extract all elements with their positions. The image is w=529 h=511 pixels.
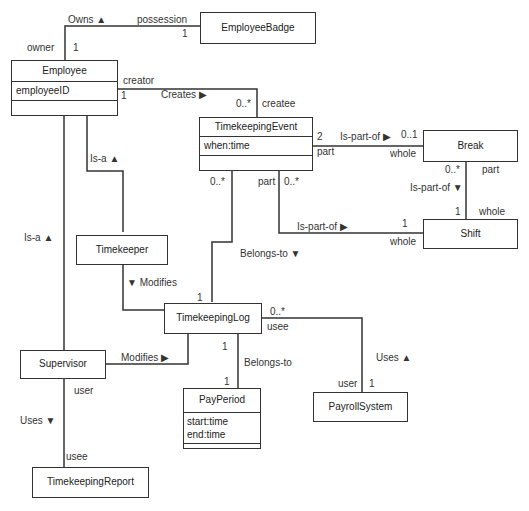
class-name: EmployeeBadge bbox=[201, 13, 315, 42]
label-owns: Owns ▲ bbox=[68, 14, 106, 25]
label-break-shift-assoc: Is-part-of ▼ bbox=[410, 182, 463, 193]
class-timekeeper: Timekeeper bbox=[76, 235, 168, 265]
label-creates: Creates ▶ bbox=[161, 89, 207, 100]
class-timekeeping-report: TimekeepingReport bbox=[32, 467, 149, 498]
label-owns-mult-badge: 1 bbox=[182, 28, 188, 39]
label-supervisor-modifies: Modifies ▶ bbox=[121, 352, 169, 363]
label-isa-supervisor: Is-a ▲ bbox=[24, 232, 53, 243]
label-log-period-mult-period: 1 bbox=[224, 376, 230, 387]
class-attributes: when:time bbox=[200, 136, 312, 155]
label-report-usee: usee bbox=[66, 451, 88, 462]
label-createe: createe bbox=[262, 98, 295, 109]
label-event-shift-part: part bbox=[258, 176, 275, 187]
class-timekeeping-event: TimekeepingEvent when:time bbox=[199, 117, 313, 171]
label-owner: owner bbox=[27, 42, 54, 53]
class-employee: Employee employeeID bbox=[11, 60, 118, 116]
class-name: Employee bbox=[12, 61, 117, 81]
label-creates-mult-event: 0..* bbox=[236, 98, 251, 109]
attribute: end:time bbox=[187, 428, 257, 441]
label-supervisor-user: user bbox=[74, 385, 93, 396]
class-supervisor: Supervisor bbox=[20, 350, 106, 379]
class-name: TimekeepingReport bbox=[33, 468, 148, 496]
label-break-shift-whole: whole bbox=[479, 206, 505, 217]
label-break-shift-part: part bbox=[482, 164, 499, 175]
label-belongs-to-event-log: Belongs-to ▼ bbox=[240, 248, 300, 259]
label-log-period-mult-log: 1 bbox=[222, 341, 228, 352]
attribute: start:time bbox=[187, 415, 257, 428]
label-event-break-mult-break: 0..1 bbox=[401, 129, 418, 140]
label-break-shift-mult-break: 0..* bbox=[445, 164, 460, 175]
label-event-break-mult-event: 2 bbox=[317, 131, 323, 142]
label-break-shift-mult-shift: 1 bbox=[455, 206, 461, 217]
class-name: Supervisor bbox=[21, 351, 105, 377]
label-event-break-whole: whole bbox=[390, 148, 416, 159]
label-supervisor-uses: Uses ▼ bbox=[20, 415, 55, 426]
label-log-usee: usee bbox=[267, 321, 289, 332]
label-log-payroll-mult: 0..* bbox=[270, 306, 285, 317]
class-shift: Shift bbox=[423, 219, 518, 249]
class-attributes: start:time end:time bbox=[184, 412, 260, 443]
class-employee-badge: EmployeeBadge bbox=[200, 12, 316, 44]
label-payroll-uses: Uses ▲ bbox=[376, 352, 411, 363]
label-creates-mult-employee: 1 bbox=[121, 90, 127, 101]
class-break: Break bbox=[423, 130, 518, 162]
class-operations bbox=[184, 443, 260, 449]
class-operations bbox=[200, 155, 312, 161]
label-timekeeper-modifies: ▼ Modifies bbox=[127, 277, 177, 288]
attribute: employeeID bbox=[16, 84, 113, 98]
label-event-break-part: part bbox=[317, 146, 334, 157]
label-owns-mult-employee: 1 bbox=[73, 42, 79, 53]
label-event-shift-mult-shift: 1 bbox=[402, 218, 408, 229]
label-event-shift-assoc: Is-part-of ▶ bbox=[297, 221, 348, 232]
class-name: TimekeepingEvent bbox=[200, 118, 312, 136]
label-payroll-user: user bbox=[338, 378, 357, 389]
label-event-break-assoc: Is-part-of ▶ bbox=[340, 131, 391, 142]
label-possession: possession bbox=[137, 14, 187, 25]
label-event-log-mult: 0..* bbox=[210, 176, 225, 187]
attribute: when:time bbox=[204, 139, 308, 153]
class-operations bbox=[12, 100, 117, 106]
uml-class-diagram: EmployeeBadge Employee employeeID Timeke… bbox=[0, 0, 529, 511]
class-name: PayPeriod bbox=[184, 389, 260, 412]
label-creator: creator bbox=[123, 75, 154, 86]
class-name: Timekeeper bbox=[77, 236, 167, 263]
label-event-shift-mult: 0..* bbox=[284, 176, 299, 187]
label-payroll-mult: 1 bbox=[369, 378, 375, 389]
label-isa-timekeeper: Is-a ▲ bbox=[90, 153, 119, 164]
label-event-shift-whole: whole bbox=[390, 236, 416, 247]
class-name: Break bbox=[424, 131, 517, 160]
class-name: Shift bbox=[424, 220, 517, 247]
class-name: TimekeepingLog bbox=[165, 304, 261, 332]
class-payroll-system: PayrollSystem bbox=[313, 392, 408, 422]
class-pay-period: PayPeriod start:time end:time bbox=[183, 388, 261, 449]
label-log-mult-event-side: 1 bbox=[197, 292, 203, 303]
class-timekeeping-log: TimekeepingLog bbox=[164, 303, 262, 334]
label-belongs-to-period: Belongs-to bbox=[244, 357, 292, 368]
class-name: PayrollSystem bbox=[314, 393, 407, 420]
class-attributes: employeeID bbox=[12, 81, 117, 100]
